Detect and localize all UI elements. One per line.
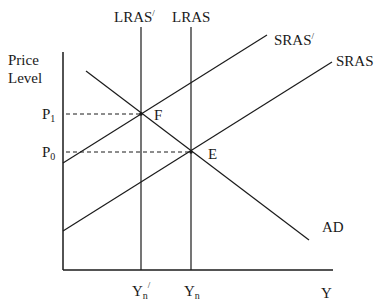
point-e-label: E: [208, 146, 217, 162]
y-axis-label-line1: Price: [8, 52, 39, 68]
sras-prime-line: [63, 35, 267, 163]
y-axis-label-line2: Level: [8, 70, 42, 86]
yn-prime-label: Yn/: [132, 280, 151, 301]
sras-line: [63, 62, 332, 231]
p0-label: P0: [42, 144, 55, 162]
ad-as-diagram: Price Level Y LRAS/ LRAS SRAS/ SRAS AD P…: [0, 0, 388, 306]
yn-label: Yn: [184, 283, 200, 301]
lras-label: LRAS: [172, 9, 210, 25]
lras-prime-label: LRAS/: [114, 8, 155, 25]
sras-prime-label: SRAS/: [274, 31, 315, 48]
sras-label: SRAS: [336, 53, 374, 69]
point-f-label: F: [154, 107, 162, 123]
p1-label: P1: [42, 106, 55, 124]
point-e-dot: [189, 150, 193, 154]
ad-label: AD: [322, 219, 344, 235]
x-axis-label: Y: [321, 285, 332, 301]
ad-line: [86, 71, 309, 240]
point-f-dot: [139, 112, 143, 116]
